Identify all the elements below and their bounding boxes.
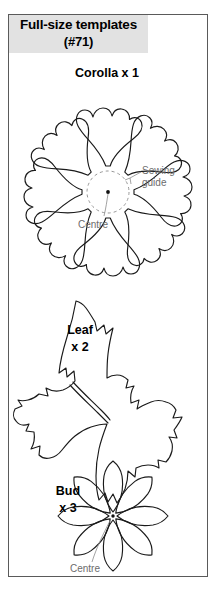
template-page: Full-size templates (#71) Corolla x 1 <box>0 0 214 591</box>
bud-centre-dot <box>111 514 114 517</box>
bud-template-drawing <box>0 0 214 591</box>
centre-callout-bud: Centre <box>70 563 100 575</box>
bud-petal <box>103 461 122 512</box>
bud-petal <box>109 512 159 562</box>
bud-figure-label-line-1: Bud <box>44 483 92 500</box>
bud-petal <box>117 506 168 525</box>
bud-petal <box>109 470 159 520</box>
bud-figure-label: Bud x 3 <box>44 483 92 517</box>
bud-petal <box>67 512 117 562</box>
bud-figure-label-line-2: x 3 <box>44 500 92 517</box>
